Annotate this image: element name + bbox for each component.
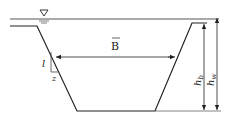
channel-outline: [10, 23, 207, 111]
channel-diagram: B l z hb hw: [0, 0, 232, 121]
slope-horizontal-label: z: [51, 74, 57, 83]
water-level-triangle-icon: [39, 10, 49, 23]
bank-height-label: hb: [192, 75, 205, 86]
top-width-label: B: [111, 40, 119, 53]
slope-vertical-label: l: [42, 58, 45, 69]
water-height-label: hw: [205, 74, 218, 86]
